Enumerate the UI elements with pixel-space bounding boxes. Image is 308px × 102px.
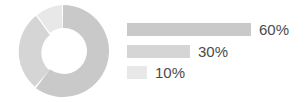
donut-chart-svg <box>15 3 111 99</box>
legend-bar-10 <box>127 66 147 79</box>
donut-slices <box>19 5 109 97</box>
legend-label-30: 30% <box>198 44 228 59</box>
chart-legend: 60% 30% 10% <box>127 18 308 90</box>
legend-label-60: 60% <box>259 22 289 37</box>
legend-label-10: 10% <box>155 65 185 80</box>
legend-bar-30 <box>127 45 190 58</box>
legend-bar-60 <box>127 23 251 36</box>
donut-chart-widget: 60% 30% 10% <box>0 0 308 102</box>
donut-chart <box>15 3 111 99</box>
legend-item-10[interactable]: 10% <box>127 65 185 79</box>
legend-item-30[interactable]: 30% <box>127 44 228 58</box>
legend-item-60[interactable]: 60% <box>127 22 289 36</box>
